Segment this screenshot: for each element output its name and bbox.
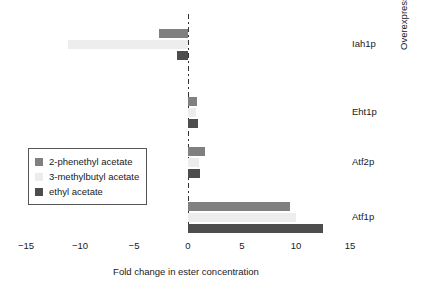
legend-item-1: 3-methylbutyl acetate xyxy=(35,169,139,184)
legend-item-2: ethyl acetate xyxy=(35,184,139,199)
bar-atf2p-1 xyxy=(188,158,199,167)
chart-legend: 2-phenethyl acetate3-methylbutyl acetate… xyxy=(28,148,147,205)
legend-swatch-icon xyxy=(35,188,43,196)
x-tick-neg15: −15 xyxy=(11,240,41,251)
y-axis-title: Overexpressed enzyme xyxy=(398,0,409,50)
bar-atf1p-0 xyxy=(188,202,290,211)
chart-figure: Iah1pEht1pAtf2pAtf1p Overexpressed enzym… xyxy=(0,0,428,292)
x-tick-10: 10 xyxy=(281,240,311,251)
x-tick-neg10: −10 xyxy=(65,240,95,251)
bar-atf1p-2 xyxy=(188,224,323,233)
bar-atf1p-1 xyxy=(188,213,296,222)
bar-atf2p-0 xyxy=(188,147,205,156)
bar-atf2p-2 xyxy=(188,169,200,178)
y-tick-eht1p: Eht1p xyxy=(352,106,377,117)
bar-eht1p-0 xyxy=(188,97,197,106)
legend-swatch-icon xyxy=(35,158,43,166)
bar-iah1p-1 xyxy=(68,40,188,49)
bar-iah1p-0 xyxy=(159,29,188,38)
legend-label: 3-methylbutyl acetate xyxy=(49,171,139,182)
x-tick-15: 15 xyxy=(335,240,365,251)
y-tick-iah1p: Iah1p xyxy=(352,38,376,49)
legend-label: ethyl acetate xyxy=(49,186,103,197)
x-tick-0: 0 xyxy=(173,240,203,251)
bar-eht1p-2 xyxy=(188,119,198,128)
y-tick-atf2p: Atf2p xyxy=(352,156,374,167)
x-axis-title: Fold change in ester concentration xyxy=(0,266,372,277)
x-tick-5: 5 xyxy=(227,240,257,251)
bar-iah1p-2 xyxy=(177,51,188,60)
legend-label: 2-phenethyl acetate xyxy=(49,156,132,167)
x-tick-neg5: −5 xyxy=(119,240,149,251)
y-tick-atf1p: Atf1p xyxy=(352,211,374,222)
legend-item-0: 2-phenethyl acetate xyxy=(35,154,139,169)
legend-swatch-icon xyxy=(35,173,43,181)
bar-eht1p-1 xyxy=(188,108,196,117)
